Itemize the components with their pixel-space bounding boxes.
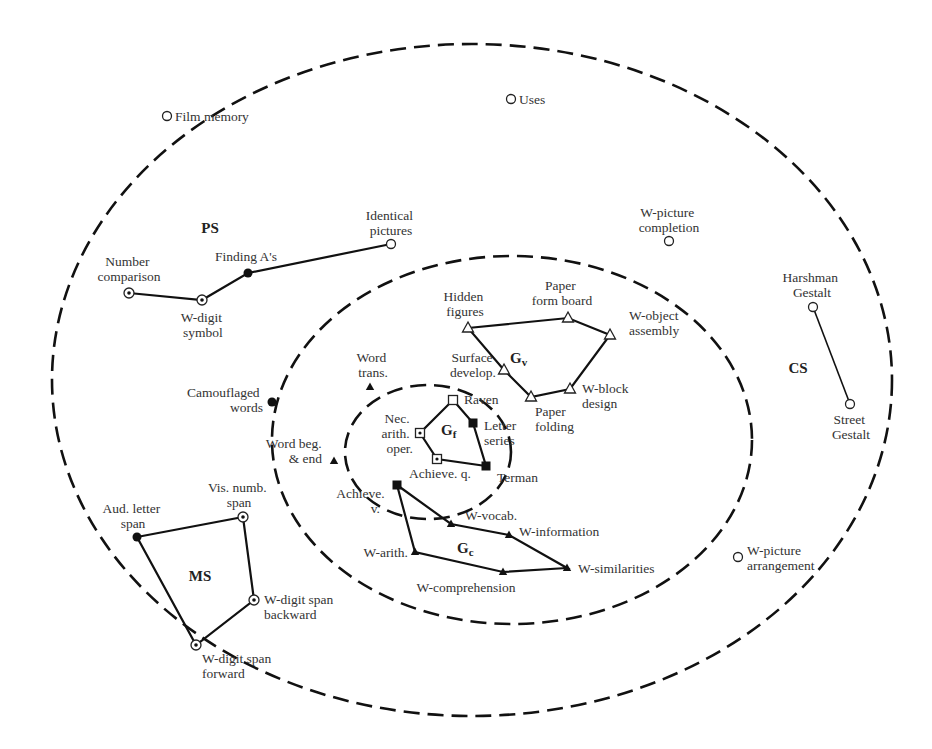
- w-picture-completion-marker: [665, 237, 674, 246]
- terman-marker: [482, 462, 491, 471]
- word-trans-marker: [366, 383, 374, 391]
- label-street-gestalt: Street Gestalt: [832, 412, 870, 442]
- group-label-gf: Gf: [441, 422, 457, 440]
- group-label-gv: Gv: [510, 350, 528, 368]
- label-letter-series: Letter series: [484, 418, 520, 448]
- raven-marker: [449, 396, 458, 405]
- label-identical-pictures: Identical pictures: [366, 208, 417, 238]
- w-digit-span-forward-marker: [191, 640, 201, 650]
- label-word-beg-end: Word beg. & end: [266, 436, 325, 466]
- label-w-information: W-information: [519, 524, 599, 539]
- label-w-object-assembly: W-object assembly: [629, 308, 682, 338]
- label-word-trans: Word trans.: [356, 350, 389, 380]
- group-label-ps: PS: [201, 220, 219, 236]
- label-uses: Uses: [519, 92, 545, 107]
- camouflaged-words-marker: [268, 398, 277, 407]
- label-w-digit-span-backward: W-digit span backward: [264, 592, 337, 622]
- label-vis-numb-span: Vis. numb. span: [208, 480, 270, 510]
- label-w-arith: W-arith.: [363, 545, 408, 560]
- vis-numb-span-marker: [238, 512, 248, 522]
- w-arith-marker: [411, 548, 419, 556]
- harshman-gestalt-marker: [809, 303, 818, 312]
- label-w-comprehension: W-comprehension: [417, 580, 516, 595]
- label-number-comparison: Number comparison: [98, 254, 161, 284]
- w-digit-span-backward-marker: [249, 595, 259, 605]
- label-terman: Terman: [497, 470, 538, 485]
- label-paper-folding: Paper folding: [535, 404, 574, 434]
- label-finding-as: Finding A's: [215, 249, 277, 264]
- film-memory-marker: [163, 112, 172, 121]
- label-w-vocab: W-vocab.: [465, 508, 517, 523]
- label-harshman-gestalt: Harshman Gestalt: [783, 270, 842, 300]
- achieve-q-marker: [433, 455, 442, 464]
- number-comparison-marker: [124, 288, 134, 298]
- paper-form-board-marker: [563, 312, 574, 322]
- label-surface-develop: Surface develop.: [450, 350, 496, 380]
- label-aud-letter-span: Aud. letter span: [102, 501, 163, 531]
- label-film-memory: Film memory: [175, 109, 249, 124]
- outer-boundary: [52, 44, 892, 716]
- label-achieve-v: Achieve. v.: [336, 486, 388, 516]
- finding-as-marker: [244, 269, 253, 278]
- group-label-ms: MS: [189, 568, 212, 584]
- w-picture-arrangement-marker: [734, 553, 743, 562]
- cs-connection: [813, 307, 850, 404]
- uses-marker: [507, 95, 516, 104]
- label-hidden-figures: Hidden figures: [443, 289, 486, 319]
- word-beg-end-marker: [330, 457, 338, 465]
- street-gestalt-marker: [846, 400, 855, 409]
- label-achieve-q: Achieve. q.: [409, 466, 471, 481]
- label-w-picture-completion: W-picture completion: [639, 205, 700, 235]
- label-nec-arith-oper: Nec. arith. oper.: [382, 411, 414, 456]
- radex-diagram: PS Gv Gf Gc MS CS Film memory Uses Ident…: [0, 0, 932, 749]
- group-label-gc: Gc: [457, 540, 474, 558]
- group-label-cs: CS: [788, 360, 807, 376]
- label-paper-form-board: Paper form board: [532, 278, 593, 308]
- label-w-block-design: W-block design: [582, 381, 632, 411]
- identical-pictures-marker: [387, 240, 396, 249]
- letter-series-marker: [469, 419, 478, 428]
- label-w-picture-arrangement: W-picture arrangement: [747, 543, 815, 573]
- w-digit-symbol-marker: [197, 295, 207, 305]
- label-raven: Raven: [464, 392, 499, 407]
- label-camouflaged-words: Camouflaged words: [187, 385, 263, 415]
- aud-letter-span-marker: [133, 533, 142, 542]
- label-w-digit-symbol: W-digit symbol: [181, 310, 226, 340]
- achieve-v-marker: [393, 481, 402, 490]
- label-w-digit-span-forward: W-digit span forward: [202, 651, 275, 681]
- label-w-similarities: W-similarities: [578, 561, 655, 576]
- nec-arith-oper-marker: [416, 429, 425, 438]
